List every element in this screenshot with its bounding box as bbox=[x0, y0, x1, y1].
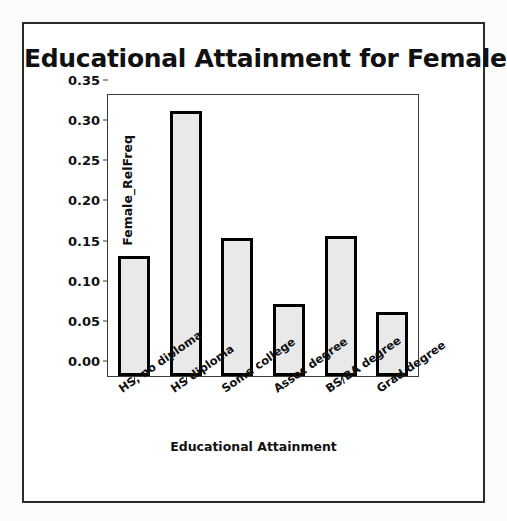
y-tick: 0.25 bbox=[68, 153, 108, 168]
y-tick: 0.30 bbox=[68, 113, 108, 128]
y-tick: 0.05 bbox=[68, 313, 108, 328]
y-tick: 0.15 bbox=[68, 233, 108, 248]
y-tick-label: 0.05 bbox=[68, 313, 100, 328]
bar-series bbox=[108, 95, 418, 376]
plot-area: Female_RelFreq 0.000.050.100.150.200.250… bbox=[107, 94, 419, 377]
page-background: Educational Attainment for Females Femal… bbox=[0, 0, 507, 521]
chart-title: Educational Attainment for Females bbox=[24, 44, 483, 73]
y-tick-label: 0.25 bbox=[68, 153, 100, 168]
y-tick-label: 0.35 bbox=[68, 73, 100, 88]
y-tick-label: 0.15 bbox=[68, 233, 100, 248]
y-tick-label: 0.00 bbox=[68, 354, 100, 369]
bar bbox=[118, 256, 150, 376]
y-tick: 0.10 bbox=[68, 273, 108, 288]
x-axis-label: Educational Attainment bbox=[24, 439, 483, 454]
y-tick-mark bbox=[103, 80, 108, 81]
y-tick: 0.35 bbox=[68, 73, 108, 88]
y-tick-label: 0.10 bbox=[68, 273, 100, 288]
y-tick: 0.20 bbox=[68, 193, 108, 208]
y-tick-label: 0.30 bbox=[68, 113, 100, 128]
y-tick: 0.00 bbox=[68, 354, 108, 369]
y-tick-label: 0.20 bbox=[68, 193, 100, 208]
figure-frame: Educational Attainment for Females Femal… bbox=[22, 22, 485, 503]
